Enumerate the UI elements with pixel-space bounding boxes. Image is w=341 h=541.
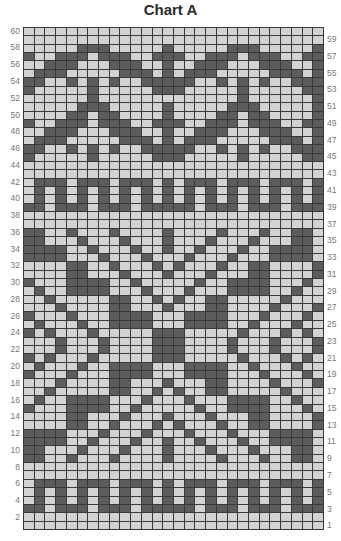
chart-cell <box>281 346 291 353</box>
chart-cell <box>153 488 163 495</box>
chart-cell <box>24 354 34 361</box>
chart-cell <box>281 446 291 453</box>
chart-cell <box>270 237 280 244</box>
chart-cell <box>153 371 163 378</box>
row-number: 25 <box>327 320 336 329</box>
chart-cell <box>99 145 109 152</box>
chart-cell <box>99 346 109 353</box>
chart-cell <box>131 405 141 412</box>
chart-cell <box>99 179 109 186</box>
chart-cell <box>131 438 141 445</box>
chart-cell <box>195 36 205 43</box>
chart-cell <box>110 413 120 420</box>
chart-cell <box>120 237 130 244</box>
chart-cell <box>292 220 302 227</box>
chart-cell <box>185 446 195 453</box>
chart-cell <box>110 237 120 244</box>
chart-cell <box>99 170 109 177</box>
chart-cell <box>153 505 163 512</box>
chart-cell <box>195 379 205 386</box>
chart-cell <box>78 254 88 261</box>
chart-cell <box>185 338 195 345</box>
chart-cell <box>45 405 55 412</box>
chart-cell <box>35 36 45 43</box>
chart-cell <box>260 421 270 428</box>
chart-cell <box>303 246 313 253</box>
chart-cell <box>249 287 259 294</box>
chart-cell <box>260 271 270 278</box>
chart-cell <box>281 145 291 152</box>
chart-cell <box>153 70 163 77</box>
chart-cell <box>35 212 45 219</box>
row-numbers-left: 6058565452504846444240383634323028262422… <box>0 27 20 530</box>
chart-cell <box>195 128 205 135</box>
chart-cell <box>131 312 141 319</box>
chart-cell <box>313 338 323 345</box>
row-number: 32 <box>11 261 20 270</box>
chart-cell <box>174 438 184 445</box>
chart-cell <box>292 36 302 43</box>
chart-cell <box>313 70 323 77</box>
chart-cell <box>35 463 45 470</box>
chart-cell <box>185 287 195 294</box>
chart-cell <box>238 271 248 278</box>
chart-cell <box>88 28 98 35</box>
chart-cell <box>217 480 227 487</box>
chart-cell <box>99 497 109 504</box>
chart-cell <box>24 346 34 353</box>
chart-cell <box>195 279 205 286</box>
chart-cell <box>120 505 130 512</box>
chart-cell <box>185 87 195 94</box>
chart-cell <box>142 446 152 453</box>
chart-cell <box>142 513 152 520</box>
chart-cell <box>163 455 173 462</box>
chart-cell <box>195 513 205 520</box>
row-number: 47 <box>327 136 336 145</box>
chart-cell <box>303 396 313 403</box>
chart-cell <box>228 145 238 152</box>
chart-cell <box>24 53 34 60</box>
chart-cell <box>313 137 323 144</box>
chart-cell <box>56 363 66 370</box>
chart-cell <box>249 53 259 60</box>
chart-cell <box>99 321 109 328</box>
chart-cell <box>238 304 248 311</box>
chart-cell <box>153 195 163 202</box>
chart-cell <box>110 346 120 353</box>
chart-cell <box>292 522 302 529</box>
chart-cell <box>78 522 88 529</box>
chart-cell <box>249 220 259 227</box>
chart-cell <box>88 229 98 236</box>
chart-cell <box>131 162 141 169</box>
chart-cell <box>292 45 302 52</box>
chart-cell <box>110 338 120 345</box>
chart-cell <box>45 354 55 361</box>
chart-cell <box>185 430 195 437</box>
chart-cell <box>238 296 248 303</box>
chart-cell <box>228 28 238 35</box>
chart-cell <box>142 396 152 403</box>
chart-cell <box>185 170 195 177</box>
chart-cell <box>260 220 270 227</box>
chart-cell <box>88 354 98 361</box>
chart-cell <box>174 145 184 152</box>
chart-cell <box>45 120 55 127</box>
chart-cell <box>131 304 141 311</box>
chart-cell <box>99 246 109 253</box>
chart-cell <box>153 28 163 35</box>
chart-cell <box>35 61 45 68</box>
chart-cell <box>270 120 280 127</box>
chart-cell <box>249 95 259 102</box>
chart-cell <box>131 36 141 43</box>
chart-cell <box>120 112 130 119</box>
chart-cell <box>260 296 270 303</box>
row-number: 43 <box>327 169 336 178</box>
chart-cell <box>35 28 45 35</box>
chart-cell <box>206 120 216 127</box>
chart-title: Chart A <box>0 1 341 18</box>
chart-cell <box>78 329 88 336</box>
chart-cell <box>24 262 34 269</box>
chart-cell <box>249 170 259 177</box>
chart-cell <box>249 480 259 487</box>
chart-cell <box>56 329 66 336</box>
